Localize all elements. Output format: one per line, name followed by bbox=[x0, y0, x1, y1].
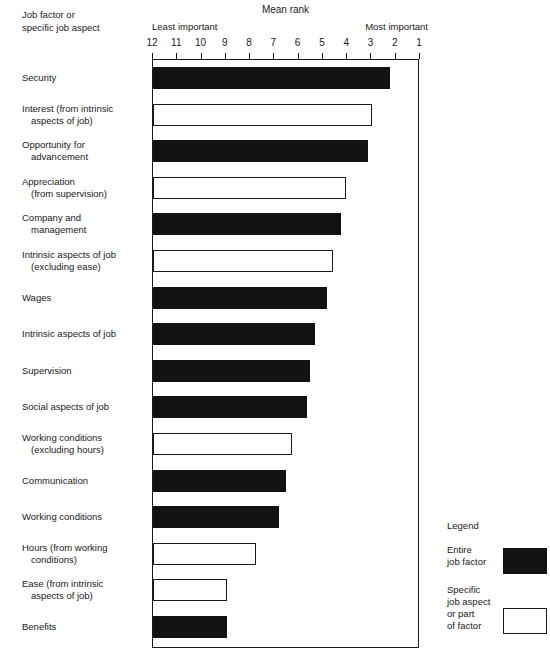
axis-tick-label-4: 4 bbox=[343, 37, 349, 48]
row-label: Company andmanagement bbox=[22, 212, 148, 236]
row-label: Security bbox=[22, 72, 148, 84]
axis-tick-label-5: 5 bbox=[319, 37, 325, 48]
row-label-line2: conditions) bbox=[22, 554, 148, 566]
row-label: Working conditions(excluding hours) bbox=[22, 432, 148, 456]
legend-label-line2: job aspect bbox=[447, 596, 499, 608]
axis-corner-header: Job factor or specific job aspect bbox=[22, 8, 147, 34]
axis-tick-label-3: 3 bbox=[368, 37, 374, 48]
row-label-line1: Supervision bbox=[22, 365, 148, 377]
axis-tick-label-11: 11 bbox=[171, 37, 181, 48]
chart-row: Intrinsic aspects of job bbox=[0, 315, 550, 352]
chart-row: Appreciation(from supervision) bbox=[0, 169, 550, 206]
chart-row: Security bbox=[0, 59, 550, 96]
axis-tick-label-10: 10 bbox=[195, 37, 206, 48]
bar-ease-from-intrinsic bbox=[153, 579, 227, 601]
bar-social-aspects-of-job bbox=[153, 396, 307, 418]
row-label: Social aspects of job bbox=[22, 401, 148, 413]
row-label: Ease (from intrinsicaspects of job) bbox=[22, 578, 148, 602]
bar-intrinsic-aspects-of-job bbox=[153, 250, 333, 272]
row-label-line1: Benefits bbox=[22, 621, 148, 633]
legend-label-line1: Entire bbox=[447, 544, 499, 556]
axis-tick-label-8: 8 bbox=[246, 37, 252, 48]
row-label-line2: (from supervision) bbox=[22, 188, 148, 200]
axis-tick-label-12: 12 bbox=[146, 37, 157, 48]
corner-header-line2: specific job aspect bbox=[22, 21, 147, 34]
row-label-line2: aspects of job) bbox=[22, 590, 148, 602]
row-label-line1: Intrinsic aspects of job bbox=[22, 249, 148, 261]
row-label: Interest (from intrinsicaspects of job) bbox=[22, 103, 148, 127]
bar-supervision bbox=[153, 360, 310, 382]
row-label: Appreciation(from supervision) bbox=[22, 176, 148, 200]
chart-row: Working conditions(excluding hours) bbox=[0, 425, 550, 462]
axis-tick-label-6: 6 bbox=[295, 37, 301, 48]
row-label-line1: Company and bbox=[22, 212, 148, 224]
row-label: Hours (from workingconditions) bbox=[22, 542, 148, 566]
row-label: Wages bbox=[22, 292, 148, 304]
row-label-line2: aspects of job) bbox=[22, 115, 148, 127]
legend-swatch-filled bbox=[503, 548, 547, 574]
axis-tick-label-9: 9 bbox=[222, 37, 228, 48]
legend-swatch-hollow bbox=[503, 608, 547, 634]
bar-opportunity-for bbox=[153, 140, 368, 162]
row-label: Intrinsic aspects of job bbox=[22, 328, 148, 340]
bar-hours-from-working bbox=[153, 543, 256, 565]
axis-end-labels: Least important Most important bbox=[152, 21, 424, 34]
legend-entry-entire-job-factor: Entire job factor bbox=[447, 544, 547, 570]
row-label-line1: Security bbox=[22, 72, 148, 84]
chart-row: Company andmanagement bbox=[0, 205, 550, 242]
axis-most-important-label: Most important bbox=[365, 21, 428, 32]
row-label-line1: Ease (from intrinsic bbox=[22, 578, 148, 590]
legend-entry-label: Entire job factor bbox=[447, 544, 499, 568]
row-label-line2: (excluding ease) bbox=[22, 261, 148, 273]
bar-working-conditions bbox=[153, 433, 292, 455]
row-label-line1: Working conditions bbox=[22, 432, 148, 444]
bar-security bbox=[153, 67, 390, 89]
axis-tick-label-2: 2 bbox=[392, 37, 398, 48]
axis-tick-label-7: 7 bbox=[271, 37, 277, 48]
legend-title: Legend bbox=[447, 520, 547, 532]
chart-row: Opportunity foradvancement bbox=[0, 132, 550, 169]
chart-title: Mean rank bbox=[152, 4, 419, 15]
legend-entry-specific-job-aspect: Specific job aspect or part of factor bbox=[447, 584, 547, 634]
row-label-line2: management bbox=[22, 224, 148, 236]
row-label-line1: Opportunity for bbox=[22, 139, 148, 151]
row-label-line1: Intrinsic aspects of job bbox=[22, 328, 148, 340]
bar-company-and bbox=[153, 213, 341, 235]
row-label-line1: Working conditions bbox=[22, 511, 148, 523]
bar-interest-from-intrinsic bbox=[153, 104, 372, 126]
row-label-line1: Interest (from intrinsic bbox=[22, 103, 148, 115]
chart-row: Wages bbox=[0, 279, 550, 316]
axis-tick-label-1: 1 bbox=[416, 37, 422, 48]
chart-row: Supervision bbox=[0, 352, 550, 389]
bar-intrinsic-aspects-of-job bbox=[153, 323, 315, 345]
legend-label-line2: job factor bbox=[447, 556, 499, 568]
legend: Legend Entire job factor Specific job as… bbox=[447, 520, 547, 648]
row-label-line1: Appreciation bbox=[22, 176, 148, 188]
corner-header-line1: Job factor or bbox=[22, 8, 147, 21]
legend-label-line4: of factor bbox=[447, 620, 499, 632]
row-label: Intrinsic aspects of job(excluding ease) bbox=[22, 249, 148, 273]
row-label: Communication bbox=[22, 475, 148, 487]
row-label-line2: (excluding hours) bbox=[22, 444, 148, 456]
chart-row: Communication bbox=[0, 462, 550, 499]
bar-benefits bbox=[153, 616, 227, 638]
bar-appreciation bbox=[153, 177, 346, 199]
chart-row: Social aspects of job bbox=[0, 388, 550, 425]
bar-communication bbox=[153, 470, 286, 492]
chart-row: Intrinsic aspects of job(excluding ease) bbox=[0, 242, 550, 279]
row-label: Benefits bbox=[22, 621, 148, 633]
legend-label-line1: Specific bbox=[447, 584, 499, 596]
bar-working-conditions bbox=[153, 506, 279, 528]
row-label-line1: Wages bbox=[22, 292, 148, 304]
row-label-line2: advancement bbox=[22, 151, 148, 163]
axis-tick-labels: 121110987654321 bbox=[0, 37, 550, 50]
row-label: Supervision bbox=[22, 365, 148, 377]
row-label: Working conditions bbox=[22, 511, 148, 523]
row-label-line1: Hours (from working bbox=[22, 542, 148, 554]
legend-label-line3: or part bbox=[447, 608, 499, 620]
bar-wages bbox=[153, 287, 327, 309]
row-label: Opportunity foradvancement bbox=[22, 139, 148, 163]
axis-least-important-label: Least important bbox=[152, 21, 217, 32]
legend-entry-label: Specific job aspect or part of factor bbox=[447, 584, 499, 632]
chart-row: Interest (from intrinsicaspects of job) bbox=[0, 96, 550, 133]
